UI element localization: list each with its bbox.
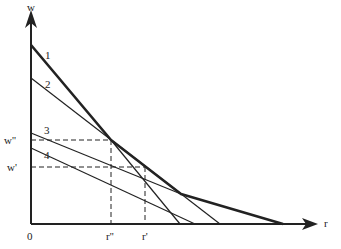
curve-2-label: 2 — [45, 79, 51, 90]
curve-1-envelope — [31, 45, 283, 224]
origin-label: 0 — [27, 231, 33, 242]
diagram-canvas: w r 0 w'' w' r'' r' 1 2 3 4 — [0, 0, 341, 249]
y-axis-label: w — [27, 2, 35, 13]
curve-3 — [31, 133, 181, 194]
r-prime-label: r' — [142, 231, 148, 242]
x-axis-label: r — [324, 218, 328, 229]
w-prime-label: w' — [7, 162, 17, 173]
r-double-prime-label: r'' — [106, 231, 114, 242]
curve-3-label: 3 — [44, 125, 50, 136]
curve-1-label: 1 — [45, 50, 51, 61]
curve-4-label: 4 — [44, 150, 50, 161]
diagram-svg — [0, 0, 341, 249]
w-double-prime-label: w'' — [4, 135, 16, 146]
